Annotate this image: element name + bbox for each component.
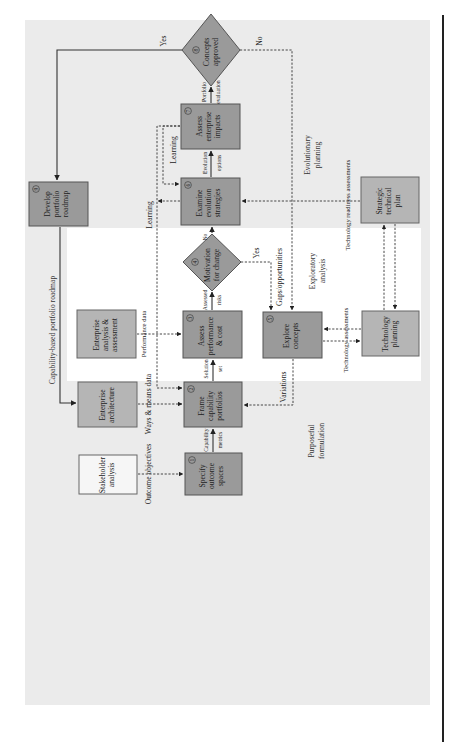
node-label: plan [393,194,402,207]
label-technology-readiness: Technology readiness assessments [344,159,351,250]
label-yes-motivation: Yes [252,247,261,258]
node-label: Enterprise [92,319,101,351]
node-frame-capability-portfolios[interactable]: Frame capability portfolios 2 [184,382,242,427]
label-ways-means-data: Ways & means data [144,373,153,434]
node-label: analysis [107,463,116,488]
node-label: spaces [216,466,225,486]
node-label: performance [206,316,215,355]
node-stakeholder-analysis[interactable]: Stakeholder analysis [79,455,137,494]
node-enterprise-analysis[interactable]: Enterprise analysis & assessment [77,310,136,358]
zone-exploratory-analysis: analysis [318,259,327,284]
node-label: portfolio [52,191,61,218]
label-gaps-opportunities: Gaps/opportunities [275,248,284,306]
zone-evolutionary-planning: planning [313,142,322,169]
node-assess-performance-cost[interactable]: Assess performance & cost 3 [183,311,242,358]
node-label: impacts [213,115,222,139]
node-label: Enterprise [98,389,107,421]
label-no-approved: No [255,36,264,45]
node-label: outcome [207,462,216,489]
node-label: Technology [381,316,390,352]
node-label: assessment [110,317,119,352]
label-capability-metrics: Capability [203,428,209,452]
step-number: 6 [185,183,191,186]
node-label: Explore [282,323,291,348]
node-label: analysis & [101,319,110,351]
node-label: Concepts [202,38,211,66]
node-label: approved [211,38,220,66]
label-performance-data: Performance data [140,311,147,357]
process-diagram: Develop portfolio roadmap 9 Concepts app… [0,0,454,755]
node-technology-planning[interactable]: Technology planning [362,311,419,356]
node-label: Stakeholder [98,456,107,493]
label-capability-roadmap: Capability-based portfolio roadmap [48,276,57,385]
node-label: concepts [291,323,300,350]
node-label: technical [384,187,393,214]
node-explore-concepts[interactable]: Explore concepts 5 [263,312,322,358]
label-outcome-objectives: Outcome objectives [144,444,153,505]
label-learning: Learning [169,136,178,164]
node-label: Assess [195,116,204,137]
node-label: architecture [107,386,116,422]
node-label: & cost [215,325,224,346]
node-label: Develop [43,191,52,217]
label-capability-metrics: metrics [217,432,223,448]
label-solution-set: Solution [203,359,209,378]
zone-exploratory-analysis: Exploratory [308,253,317,289]
node-label: Motivation [203,248,212,282]
node-develop-portfolio-roadmap[interactable]: Develop portfolio roadmap 9 [29,182,88,226]
node-label: strategies [213,189,222,218]
label-variations: Variations [279,372,288,403]
node-strategic-technical-plan[interactable]: Strategic technical plan [361,177,419,223]
node-label: for change [212,248,221,281]
zone-purposeful-formulation: Purposeful [307,425,316,458]
node-label: enterprise [204,111,213,142]
label-evolution-options: Evolution [202,152,208,174]
node-assess-enterprise-impacts[interactable]: Assess enterprise impacts 7 [181,104,240,149]
node-label: planning [390,321,399,348]
step-number: 9 [33,187,39,190]
node-label: Examine [195,189,204,217]
label-assessed-risks: Assessed [202,290,208,311]
label-assessed-risks: risks [216,295,222,306]
label-portfolio-evaluation: Portfolio [201,82,207,102]
step-number: 3 [187,316,193,319]
node-label: portfolios [215,391,224,421]
step-number: 1 [189,458,195,461]
label-portfolio-evaluation: evaluation [215,80,221,104]
node-enterprise-architecture[interactable]: Enterprise architecture [78,382,137,427]
step-number: 5 [267,317,273,320]
node-label: evolution [204,188,213,217]
node-label: Assess [197,326,206,347]
node-label: roadmap [61,191,70,218]
zone-evolutionary-planning: Evolutionary [303,135,312,175]
label-technology-assessments: Technology assessments [342,307,349,372]
node-label: Specify [198,464,207,487]
label-solution-set: set [217,365,223,372]
step-number: 4 [192,260,198,263]
node-label: Strategic [375,187,384,215]
label-no-motivation: No [202,233,208,240]
step-number: 2 [188,387,194,390]
label-evolution-options: options [216,155,222,171]
label-learning: Learning [145,201,154,229]
node-label: Frame [197,396,206,416]
label-yes-approved: Yes [159,35,168,46]
step-number: 7 [185,109,191,112]
node-specify-outcome-spaces[interactable]: Specify outcome spaces 1 [185,453,242,495]
node-label: capability [206,391,215,421]
step-number: 8 [193,48,199,51]
zone-purposeful-formulation: formulation [317,423,326,459]
node-examine-evolution-strategies[interactable]: Examine evolution strategies 6 [181,178,240,225]
